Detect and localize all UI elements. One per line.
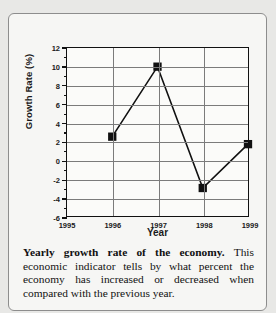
y-tick-minor <box>64 170 67 171</box>
y-tick <box>62 47 67 48</box>
y-tick-minor <box>64 132 67 133</box>
figure-card: Growth Rate (%) 121086420-2-4-6199519961… <box>8 13 267 311</box>
y-gridline <box>67 161 248 162</box>
line-series <box>67 48 248 216</box>
y-tick-label: -4 <box>53 195 60 204</box>
y-tick-minor <box>64 189 67 190</box>
y-tick <box>62 217 67 218</box>
x-gridline <box>159 48 160 216</box>
x-axis-title: Year <box>66 227 249 238</box>
y-tick-minor <box>64 76 67 77</box>
y-tick <box>62 180 67 181</box>
y-tick-minor <box>64 208 67 209</box>
y-gridline <box>67 67 248 68</box>
y-tick <box>62 66 67 67</box>
y-tick-label: 2 <box>56 138 60 147</box>
caption-lead: Yearly growth rate of the economy. <box>23 246 225 258</box>
y-gridline <box>67 142 248 143</box>
y-tick-label: 8 <box>56 81 60 90</box>
y-gridline <box>67 180 248 181</box>
data-point-marker <box>199 184 207 192</box>
y-tick-label: 10 <box>52 62 60 71</box>
y-gridline <box>67 105 248 106</box>
y-tick-minor <box>64 151 67 152</box>
y-tick-label: 4 <box>56 119 60 128</box>
y-gridline <box>67 199 248 200</box>
figure-caption: Yearly growth rate of the economy. This … <box>23 246 254 300</box>
y-tick-minor <box>64 57 67 58</box>
y-tick-label: 12 <box>52 44 60 53</box>
y-gridline <box>67 86 248 87</box>
y-tick-minor <box>64 95 67 96</box>
x-gridline <box>204 48 205 216</box>
y-tick <box>62 161 67 162</box>
y-tick-label: 6 <box>56 100 60 109</box>
data-point-marker <box>244 140 252 148</box>
y-tick <box>62 85 67 86</box>
y-tick <box>62 198 67 199</box>
growth-rate-chart: Growth Rate (%) 121086420-2-4-6199519961… <box>9 14 266 242</box>
x-gridline <box>113 48 114 216</box>
plot-area: 121086420-2-4-619951996199719981999 <box>66 47 249 217</box>
y-axis-title: Growth Rate (%) <box>23 42 34 142</box>
y-tick <box>62 104 67 105</box>
y-gridline <box>67 124 248 125</box>
y-tick <box>62 123 67 124</box>
y-tick <box>62 142 67 143</box>
y-tick-label: -2 <box>53 176 60 185</box>
y-tick-label: 0 <box>56 157 60 166</box>
y-tick-minor <box>64 114 67 115</box>
